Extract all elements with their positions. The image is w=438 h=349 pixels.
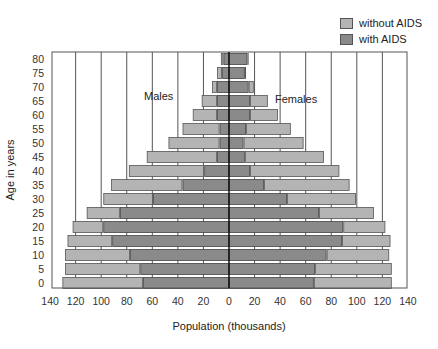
bar-females-with-aids <box>229 264 315 275</box>
bar-females-without-aids <box>327 250 389 261</box>
bar-females-with-aids <box>229 180 264 191</box>
bar-males-without-aids <box>147 152 216 163</box>
y-tick-label: 10 <box>32 249 44 261</box>
bar-females-without-aids <box>319 208 373 219</box>
bar-males-without-aids <box>202 96 216 107</box>
bar-females-without-aids <box>249 82 253 93</box>
x-tick-label: 120 <box>374 295 392 307</box>
bar-males-without-aids <box>104 194 153 205</box>
bar-females-with-aids <box>229 278 313 289</box>
bar-females-with-aids <box>229 96 249 107</box>
bar-males-with-aids <box>120 208 229 219</box>
bar-males-with-aids <box>217 110 229 121</box>
bar-females-without-aids <box>247 124 291 135</box>
males-label: Males <box>144 90 174 102</box>
bar-males-without-aids <box>65 250 129 261</box>
x-tick-label: 80 <box>121 295 133 307</box>
bar-females-with-aids <box>229 166 249 177</box>
y-tick-label: 25 <box>32 207 44 219</box>
legend-label: with AIDS <box>359 33 407 45</box>
bar-females-with-aids <box>229 236 341 247</box>
y-tick-label: 55 <box>32 123 44 135</box>
x-tick-label: 40 <box>274 295 286 307</box>
x-tick-label: 60 <box>146 295 158 307</box>
x-tick-label: 60 <box>300 295 312 307</box>
y-axis-label: Age in years <box>4 139 16 201</box>
bar-males-with-aids <box>154 194 229 205</box>
bar-females-with-aids <box>229 54 247 65</box>
x-tick-label: 0 <box>226 295 232 307</box>
y-tick-label: 0 <box>38 277 44 289</box>
bar-females-without-aids <box>288 194 356 205</box>
bar-males-with-aids <box>220 138 229 149</box>
bar-males-with-aids <box>183 180 229 191</box>
bar-males-with-aids <box>205 166 229 177</box>
bar-males-without-aids <box>169 138 219 149</box>
bar-males-with-aids <box>104 222 229 233</box>
y-tick-label: 20 <box>32 221 44 233</box>
bar-males-with-aids <box>131 250 229 261</box>
x-tick-label: 100 <box>348 295 366 307</box>
population-pyramid-chart: 05101520253035404550556065707580 1401201… <box>0 0 438 349</box>
y-tick-label: 65 <box>32 95 44 107</box>
x-axis-label: Population (thousands) <box>172 320 285 332</box>
bar-males-with-aids <box>223 68 229 79</box>
x-tick-label: 80 <box>325 295 337 307</box>
y-tick-label: 60 <box>32 109 44 121</box>
bar-males-without-aids <box>129 166 203 177</box>
bar-females-without-aids <box>344 222 385 233</box>
y-tick-label: 15 <box>32 235 44 247</box>
y-tick-label: 40 <box>32 165 44 177</box>
bar-females-without-aids <box>245 152 323 163</box>
bar-females-without-aids <box>250 166 338 177</box>
bar-males-without-aids <box>73 222 103 233</box>
x-tick-label: 100 <box>92 295 110 307</box>
legend-item-with-aids: with AIDS <box>340 31 422 47</box>
bar-females-without-aids <box>250 110 277 121</box>
bar-males-with-aids <box>220 124 229 135</box>
x-tick-label: 20 <box>249 295 261 307</box>
bar-males-without-aids <box>183 124 219 135</box>
bar-males-with-aids <box>224 54 229 65</box>
bar-males-without-aids <box>63 278 143 289</box>
x-tick-label: 20 <box>198 295 210 307</box>
legend-swatch-with-aids <box>340 34 353 45</box>
x-tick-label: 140 <box>399 295 417 307</box>
bar-females-with-aids <box>229 82 248 93</box>
bar-females-without-aids <box>314 278 391 289</box>
bar-males-with-aids <box>141 264 229 275</box>
bar-females-with-aids <box>229 194 287 205</box>
y-tick-label: 5 <box>38 263 44 275</box>
bar-males-without-aids <box>212 82 216 93</box>
bar-males-without-aids <box>221 54 223 65</box>
bar-males-with-aids <box>113 236 229 247</box>
bar-females-without-aids <box>342 236 390 247</box>
y-tick-label: 75 <box>32 67 44 79</box>
bar-females-without-aids <box>250 96 267 107</box>
legend: without AIDS with AIDS <box>340 15 422 47</box>
bar-females-with-aids <box>229 124 246 135</box>
bar-males-with-aids <box>217 152 229 163</box>
bar-males-without-aids <box>193 110 216 121</box>
x-tick-label: 140 <box>41 295 59 307</box>
bar-females-with-aids <box>229 250 326 261</box>
y-tick-label: 80 <box>32 53 44 65</box>
bar-males-without-aids <box>65 264 139 275</box>
y-tick-labels: 05101520253035404550556065707580 <box>32 53 44 289</box>
bar-males-without-aids <box>68 236 112 247</box>
y-tick-label: 35 <box>32 179 44 191</box>
bar-females-with-aids <box>229 208 318 219</box>
y-tick-label: 50 <box>32 137 44 149</box>
x-tick-label: 40 <box>172 295 184 307</box>
bar-females-without-aids <box>265 180 350 191</box>
bar-males-without-aids <box>217 68 221 79</box>
y-tick-label: 70 <box>32 81 44 93</box>
x-tick-labels: 14012010080604020020406080100120140 <box>41 295 417 307</box>
legend-swatch-without-aids <box>340 18 353 29</box>
bar-females-without-aids <box>244 138 303 149</box>
bar-females-without-aids <box>316 264 392 275</box>
y-tick-label: 45 <box>32 151 44 163</box>
bar-males-with-aids <box>143 278 229 289</box>
legend-label: without AIDS <box>359 17 422 29</box>
legend-item-without-aids: without AIDS <box>340 15 422 31</box>
